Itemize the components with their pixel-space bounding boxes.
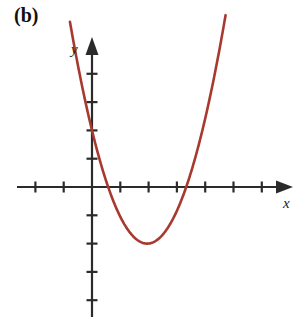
parabola-plot: y x [0, 0, 308, 319]
figure-panel: (b) [0, 0, 308, 319]
x-axis-arrowhead-icon [276, 181, 293, 194]
y-axis-label: y [69, 41, 78, 57]
y-axis-arrowhead-icon [86, 37, 99, 55]
x-axis-label: x [282, 195, 290, 211]
